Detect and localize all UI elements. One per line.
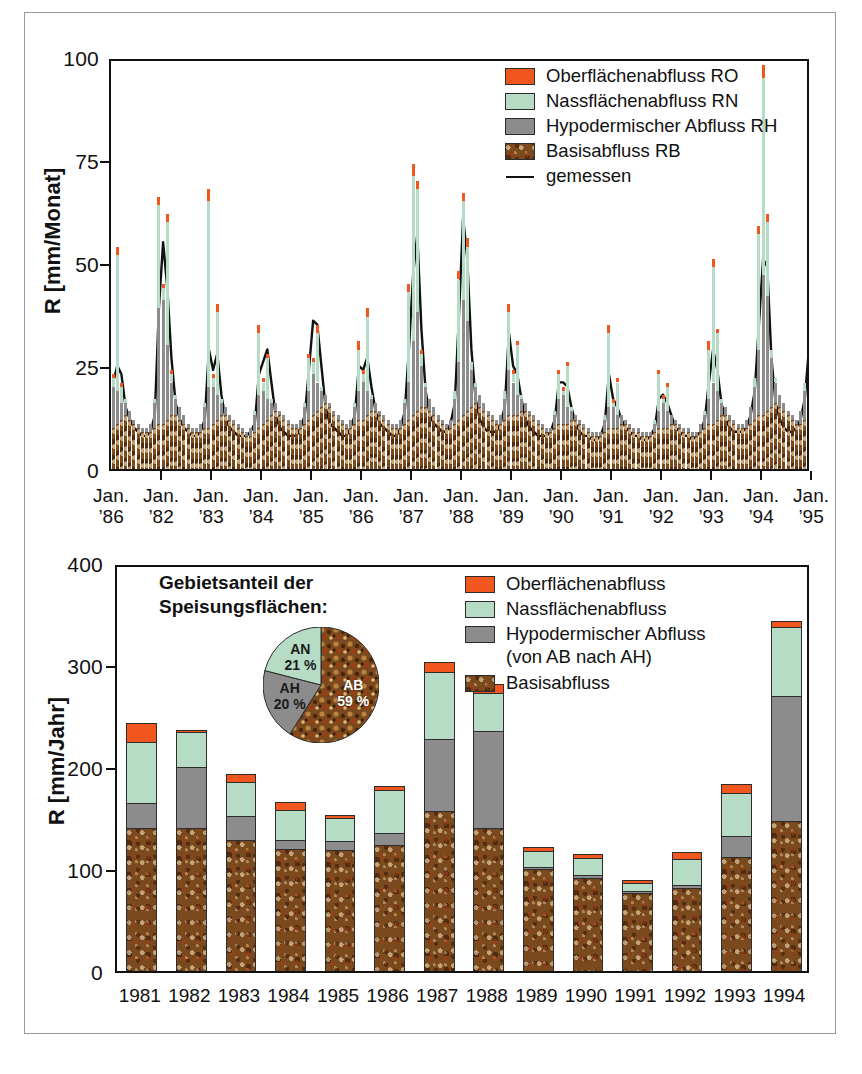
top-xtick-month: Jan.	[243, 485, 279, 506]
monthly-segment-ro	[216, 304, 219, 312]
annual-segment-rn	[275, 810, 306, 841]
monthly-segment-rh	[682, 428, 685, 432]
top-xtick-label: Jan.’85	[293, 485, 329, 528]
monthly-column	[499, 61, 502, 469]
monthly-segment-rb	[599, 436, 602, 469]
monthly-segment-ro	[766, 214, 769, 222]
monthly-segment-rb	[174, 415, 177, 469]
annual-segment-rh	[771, 696, 802, 821]
monthly-segment-rn	[207, 201, 210, 386]
monthly-segment-rh	[649, 432, 652, 436]
monthly-segment-rh	[532, 415, 535, 419]
monthly-segment-rh	[162, 300, 165, 424]
monthly-segment-rb	[712, 424, 715, 469]
monthly-column	[807, 61, 809, 469]
monthly-segment-rn	[312, 362, 315, 374]
monthly-segment-rh	[362, 382, 365, 419]
monthly-column	[345, 61, 348, 469]
monthly-segment-rh	[732, 420, 735, 424]
monthly-segment-rh	[545, 428, 548, 432]
annual-segment-rb	[622, 893, 653, 971]
pie-label-AH: AH20 %	[274, 682, 306, 713]
bottom-xtick-label: 1987	[416, 985, 458, 1006]
top-xtick-mark	[260, 471, 262, 480]
monthly-segment-rh	[266, 399, 269, 420]
monthly-column	[132, 61, 135, 469]
monthly-column	[803, 61, 806, 469]
annual-segment-rn	[573, 858, 604, 875]
monthly-segment-rb	[262, 424, 265, 469]
annual-segment-rh	[374, 833, 405, 844]
monthly-segment-rh	[441, 420, 444, 424]
monthly-segment-rb	[424, 407, 427, 469]
bottom-ytick-mark	[106, 768, 115, 770]
legend-entry: Nassflächenabfluss	[465, 598, 705, 620]
monthly-segment-rh	[487, 411, 490, 415]
monthly-segment-ro	[462, 193, 465, 201]
monthly-segment-rn	[170, 374, 173, 382]
monthly-column	[482, 61, 485, 469]
annual-segment-rb	[573, 878, 604, 971]
monthly-segment-rb	[278, 415, 281, 469]
annual-bar	[771, 567, 802, 971]
monthly-segment-rh	[724, 407, 727, 415]
monthly-segment-rb	[407, 420, 410, 469]
monthly-segment-rn	[412, 176, 415, 341]
pie-label-value: 21 %	[284, 658, 316, 674]
monthly-segment-rb	[670, 424, 673, 469]
monthly-segment-rh	[645, 432, 648, 436]
top-ytick-mark	[100, 161, 109, 163]
monthly-column	[391, 61, 394, 469]
monthly-segment-rh	[124, 403, 127, 415]
monthly-segment-rh	[291, 424, 294, 428]
monthly-segment-rn	[462, 201, 465, 300]
monthly-segment-rh	[716, 391, 719, 420]
monthly-segment-rh	[220, 403, 223, 415]
top-xtick-label: Jan.’92	[643, 485, 679, 528]
monthly-segment-rn	[266, 358, 269, 399]
monthly-segment-rh	[132, 420, 135, 424]
bottom-ytick-label: 200	[25, 757, 103, 781]
annual-segment-rn	[325, 818, 356, 841]
annual-segment-rb	[176, 828, 207, 971]
monthly-segment-rh	[303, 407, 306, 423]
top-xtick-label: Jan.’89	[493, 485, 529, 528]
monthly-segment-rb	[391, 428, 394, 469]
monthly-segment-rb	[570, 420, 573, 469]
annual-segment-ro	[325, 815, 356, 818]
monthly-segment-ro	[566, 362, 569, 366]
monthly-segment-rn	[616, 383, 619, 416]
annual-segment-rn	[771, 627, 802, 695]
bottom-xtick-label: 1994	[763, 985, 805, 1006]
annual-segment-ro	[226, 774, 257, 782]
monthly-segment-rh	[212, 387, 215, 424]
monthly-segment-rb	[453, 424, 456, 469]
monthly-column	[162, 61, 165, 469]
monthly-segment-rb	[282, 420, 285, 469]
bottom-xtick-label: 1993	[714, 985, 756, 1006]
top-xtick-mark	[710, 471, 712, 480]
monthly-column	[299, 61, 302, 469]
monthly-segment-ro	[120, 383, 123, 387]
monthly-segment-rb	[520, 411, 523, 469]
annual-segment-ro	[672, 852, 703, 859]
monthly-segment-rn	[570, 407, 573, 411]
monthly-segment-rh	[249, 428, 252, 436]
annual-segment-ro	[523, 847, 554, 851]
monthly-segment-rb	[616, 428, 619, 469]
monthly-column	[166, 61, 169, 469]
bottom-xtick-label: 1992	[664, 985, 706, 1006]
monthly-segment-rb	[257, 428, 260, 469]
monthly-segment-rh	[153, 403, 156, 428]
monthly-segment-rn	[716, 333, 719, 391]
monthly-segment-rb	[120, 420, 123, 469]
monthly-segment-rb	[182, 424, 185, 469]
monthly-segment-rh	[112, 387, 115, 428]
monthly-column	[324, 61, 327, 469]
annual-segment-ro	[275, 802, 306, 810]
monthly-segment-rb	[632, 432, 635, 469]
monthly-segment-rh	[349, 420, 352, 428]
legend-entry: gemessen	[505, 165, 777, 187]
top-xtick-mark	[660, 471, 662, 480]
monthly-segment-ro	[507, 304, 510, 312]
